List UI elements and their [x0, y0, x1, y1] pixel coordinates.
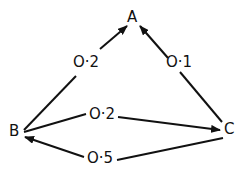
edge-label-b-c: O·2 — [89, 107, 115, 122]
edge-c-to-a-upper — [140, 26, 168, 58]
edge-c-to-b-left — [25, 137, 84, 157]
node-a: A — [127, 10, 137, 25]
node-b: B — [9, 124, 19, 139]
edge-label-c-a: O·1 — [166, 55, 192, 70]
edge-label-b-a: O·2 — [73, 55, 99, 70]
edge-b-to-a-lower — [24, 76, 76, 130]
transition-diagram: A B C O·2 O·1 O·2 O·5 — [0, 0, 244, 176]
edge-b-to-c-right — [118, 117, 220, 130]
edge-b-to-a-upper — [100, 26, 127, 49]
edges-layer — [0, 0, 244, 176]
edge-b-to-c-left — [24, 114, 86, 132]
node-c: C — [224, 122, 234, 137]
edge-c-to-a-lower — [180, 72, 222, 122]
edge-label-c-b: O·5 — [87, 151, 113, 166]
edge-c-to-b-right — [117, 138, 223, 160]
